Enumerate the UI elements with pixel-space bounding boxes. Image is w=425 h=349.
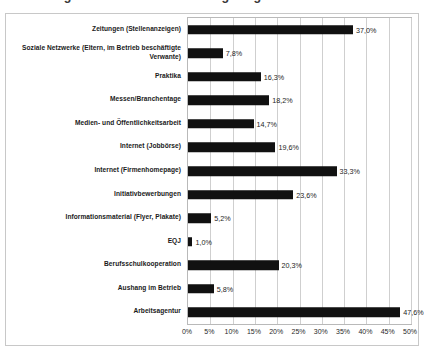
bar-value-label: 14,7% — [254, 119, 277, 128]
bar — [188, 96, 269, 106]
bar-value-label: 19,6% — [275, 143, 298, 152]
bar — [188, 260, 279, 270]
x-tick-label: 5% — [204, 328, 214, 335]
bar-value-label: 37,0% — [353, 25, 376, 34]
bar-row: 5,2% — [188, 207, 411, 229]
bar-value-label: 16,3% — [261, 72, 284, 81]
bar-row: 7,8% — [188, 42, 411, 64]
bar-value-label: 23,6% — [293, 190, 316, 199]
x-tick-label: 15% — [247, 328, 261, 335]
category-label: Zeitungen (Stellenanzeigen) — [5, 25, 181, 33]
plot-area: 37,0%7,8%16,3%18,2%14,7%19,6%33,3%23,6%5… — [187, 17, 412, 325]
bar-value-label: 47,6% — [400, 308, 423, 317]
category-axis: Zeitungen (Stellenanzeigen)Soziale Netzw… — [6, 14, 187, 325]
bar-row: 14,7% — [188, 113, 411, 135]
bar — [188, 307, 400, 317]
category-label: Soziale Netzwerke (Eltern, im Betrieb be… — [5, 44, 181, 61]
x-tick-label: 10% — [225, 328, 239, 335]
bar — [188, 49, 223, 59]
x-tick-label: 40% — [358, 328, 372, 335]
bar — [188, 119, 254, 129]
category-label: Initiativbewerbungen — [5, 189, 181, 197]
bar — [188, 190, 293, 200]
bar-value-label: 7,8% — [223, 49, 242, 58]
bar-value-label: 20,3% — [279, 261, 302, 270]
bar-row: 47,6% — [188, 301, 411, 323]
chart-frame: Zeitungen (Stellenanzeigen)Soziale Netzw… — [5, 13, 419, 346]
bar-row: 20,3% — [188, 254, 411, 276]
x-tick-label: 25% — [291, 328, 305, 335]
bar-value-label: 33,3% — [337, 167, 360, 176]
category-label: Aushang im Betrieb — [5, 283, 181, 291]
category-label: Arbeitsagentur — [5, 307, 181, 315]
category-label: Praktika — [5, 72, 181, 80]
x-tick-label: 45% — [381, 328, 395, 335]
bar-row: 33,3% — [188, 160, 411, 182]
bar-value-label: 18,2% — [269, 96, 292, 105]
category-label: Internet (Jobbörse) — [5, 142, 181, 150]
figure-title-cropped: Abbildung 4: Genutzte Rekrutierungswege — [0, 0, 425, 9]
bar-row: 1,0% — [188, 231, 411, 253]
bar — [188, 72, 261, 82]
bar — [188, 284, 214, 294]
category-label: Messen/Branchentage — [5, 95, 181, 103]
bar-row: 18,2% — [188, 89, 411, 111]
gridline — [411, 18, 412, 324]
x-tick-label: 20% — [269, 328, 283, 335]
x-tick-label: 50% — [403, 328, 417, 335]
bar — [188, 213, 211, 223]
category-label: Informationsmaterial (Flyer, Plakate) — [5, 213, 181, 221]
category-label: Berufsschulkooperation — [5, 260, 181, 268]
bar — [188, 143, 275, 153]
bar — [188, 25, 353, 35]
x-tick-label: 35% — [336, 328, 350, 335]
bar-value-label: 1,0% — [192, 237, 211, 246]
bar-value-label: 5,8% — [214, 284, 233, 293]
value-axis: 0%5%10%15%20%25%30%35%40%45%50% — [187, 326, 412, 342]
bar-value-label: 5,2% — [211, 214, 230, 223]
bar-row: 37,0% — [188, 19, 411, 41]
bar-row: 19,6% — [188, 136, 411, 158]
bar-row: 16,3% — [188, 66, 411, 88]
category-label: Medien- und Öffentlichkeitsarbeit — [5, 119, 181, 127]
x-tick-label: 30% — [314, 328, 328, 335]
x-tick-label: 0% — [182, 328, 192, 335]
category-label: Internet (Firmenhomepage) — [5, 166, 181, 174]
figure-title-text: Abbildung 4: Genutzte Rekrutierungswege — [8, 0, 269, 3]
bar-row: 5,8% — [188, 278, 411, 300]
category-label: EQJ — [5, 236, 181, 244]
bar-row: 23,6% — [188, 184, 411, 206]
bar — [188, 166, 337, 176]
